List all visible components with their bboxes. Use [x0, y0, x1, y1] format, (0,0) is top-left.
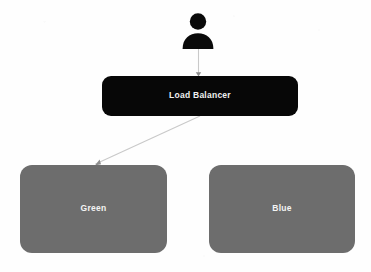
user-body-icon: [183, 33, 214, 49]
node-load-balancer-label: Load Balancer: [169, 91, 231, 100]
user-person-icon: [178, 12, 218, 50]
user-head-icon: [190, 13, 206, 29]
node-green[interactable]: Green: [20, 165, 167, 253]
connector-actor-to-load-balancer: [196, 48, 201, 77]
node-blue[interactable]: Blue: [209, 165, 355, 253]
diagram-canvas: Load Balancer Green Blue: [0, 0, 371, 272]
node-green-label: Green: [81, 204, 107, 213]
connector-load-balancer-to-green: [95, 116, 200, 166]
node-blue-label: Blue: [272, 204, 291, 213]
node-load-balancer[interactable]: Load Balancer: [102, 76, 298, 116]
